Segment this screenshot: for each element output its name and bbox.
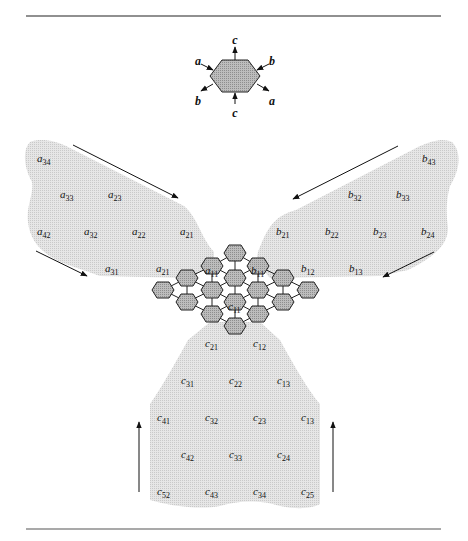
direction-label-c: c [232, 33, 238, 47]
systolic-array-diagram: cbacba a34a33a23a42a32a22a21a31a21 b43b3… [0, 0, 468, 541]
hex-cell [224, 270, 246, 286]
hex-cell [272, 294, 294, 310]
hex-cell [297, 282, 319, 298]
direction-label-a: a [195, 54, 201, 68]
hex-cell [201, 306, 223, 322]
hex-cell [272, 270, 294, 286]
hex-cell [247, 282, 269, 298]
hex-cell [176, 294, 198, 310]
hex-cell [224, 245, 246, 261]
hex-cell [224, 318, 246, 334]
direction-label-a: a [269, 94, 275, 108]
direction-label-b: b [195, 94, 201, 108]
direction-label-b: b [269, 54, 275, 68]
hex-cell [152, 282, 174, 298]
hex-cell [176, 270, 198, 286]
legend-hexagon [201, 47, 269, 104]
region-c [150, 322, 320, 508]
hex-cell [201, 282, 223, 298]
hex-cell [247, 306, 269, 322]
region-a [25, 140, 214, 278]
direction-label-c: c [232, 106, 238, 120]
